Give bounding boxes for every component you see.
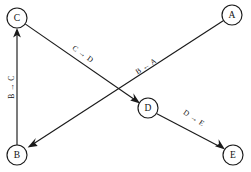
edge-a-to-b-arrowhead [28,138,38,147]
node-c[interactable]: C [7,8,27,28]
graph-svg: B → C C → D B ← A D → E C A [0,0,251,172]
edge-c-to-d-label: C → D [71,43,96,64]
edge-b-to-c-label: B → C [7,75,16,99]
node-e-label: E [230,150,236,160]
edge-a-to-b-label: B ← A [134,56,159,76]
edge-d-to-e[interactable]: D → E [156,108,225,150]
node-b[interactable]: B [7,145,27,165]
node-a[interactable]: A [222,5,242,25]
diagram-canvas: B → C C → D B ← A D → E C A [0,0,251,172]
edge-b-to-c[interactable]: B → C [7,28,21,145]
node-b-label: B [14,150,20,160]
edge-c-to-d-line [25,24,136,101]
node-d[interactable]: D [138,98,158,118]
node-a-label: A [229,10,236,20]
edge-a-to-b[interactable]: B ← A [28,20,224,147]
edge-a-to-b-line [32,20,223,144]
edge-c-to-d[interactable]: C → D [25,24,140,104]
edge-c-to-d-arrowhead [130,93,140,103]
edge-d-to-e-label: D → E [182,108,207,129]
node-d-label: D [145,103,152,113]
node-e[interactable]: E [223,145,243,165]
node-c-label: C [14,13,20,23]
